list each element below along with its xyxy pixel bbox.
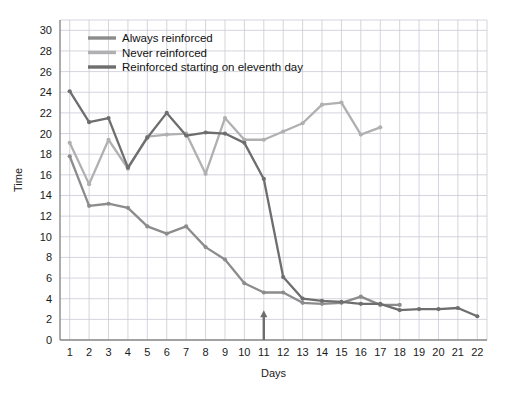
series-polyline-0 bbox=[70, 156, 400, 305]
y-tick-label: 8 bbox=[46, 251, 52, 263]
y-tick-label: 14 bbox=[40, 189, 52, 201]
data-point bbox=[184, 134, 188, 138]
data-point bbox=[359, 132, 363, 136]
y-tick-label: 4 bbox=[46, 293, 52, 305]
data-point bbox=[281, 275, 285, 279]
data-point bbox=[203, 245, 207, 249]
data-point bbox=[223, 257, 227, 261]
x-tick-label: 16 bbox=[355, 346, 367, 358]
data-point bbox=[87, 204, 91, 208]
x-tick-label: 13 bbox=[296, 346, 308, 358]
y-tick-label: 30 bbox=[40, 24, 52, 36]
x-tick-label: 17 bbox=[374, 346, 386, 358]
y-tick-label: 6 bbox=[46, 272, 52, 284]
data-point bbox=[145, 224, 149, 228]
y-tick-label: 28 bbox=[40, 45, 52, 57]
y-tick-label: 10 bbox=[40, 231, 52, 243]
data-point bbox=[301, 121, 305, 125]
data-point bbox=[398, 308, 402, 312]
data-point bbox=[320, 299, 324, 303]
data-point bbox=[339, 300, 343, 304]
x-tick-label: 10 bbox=[238, 346, 250, 358]
data-point bbox=[242, 141, 246, 145]
series-polyline-2 bbox=[70, 91, 478, 316]
x-tick-label: 11 bbox=[258, 346, 269, 358]
data-point bbox=[262, 177, 266, 181]
arrow-head bbox=[260, 310, 267, 317]
x-tick-label: 3 bbox=[105, 346, 111, 358]
data-point bbox=[165, 132, 169, 136]
data-point bbox=[145, 136, 149, 140]
x-axis-tick-labels: 12345678910111213141516171819202122 bbox=[67, 346, 484, 358]
x-tick-label: 6 bbox=[164, 346, 170, 358]
data-point bbox=[165, 232, 169, 236]
data-point bbox=[68, 89, 72, 93]
data-point bbox=[106, 202, 110, 206]
eleventh-day-marker bbox=[260, 310, 267, 340]
x-tick-label: 2 bbox=[86, 346, 92, 358]
data-point bbox=[301, 297, 305, 301]
y-tick-label: 2 bbox=[46, 313, 52, 325]
data-point bbox=[281, 129, 285, 133]
y-tick-label: 12 bbox=[40, 210, 52, 222]
data-point bbox=[203, 172, 207, 176]
legend: Always reinforcedNever reinforcedReinfor… bbox=[88, 32, 303, 73]
data-point bbox=[106, 138, 110, 142]
legend-label: Always reinforced bbox=[122, 32, 213, 44]
x-tick-label: 18 bbox=[394, 346, 406, 358]
data-point bbox=[126, 166, 130, 170]
series-line bbox=[68, 154, 402, 307]
data-point bbox=[126, 206, 130, 210]
data-point bbox=[68, 141, 72, 145]
x-tick-label: 8 bbox=[203, 346, 209, 358]
x-tick-label: 15 bbox=[335, 346, 347, 358]
data-point bbox=[417, 307, 421, 311]
x-tick-label: 7 bbox=[183, 346, 189, 358]
y-tick-label: 24 bbox=[40, 86, 52, 98]
data-point bbox=[301, 301, 305, 305]
data-point bbox=[242, 281, 246, 285]
data-point bbox=[223, 116, 227, 120]
y-tick-label: 0 bbox=[46, 334, 52, 346]
data-point bbox=[203, 130, 207, 134]
x-tick-label: 14 bbox=[316, 346, 328, 358]
x-tick-label: 5 bbox=[144, 346, 150, 358]
series-line bbox=[68, 89, 480, 318]
y-tick-label: 18 bbox=[40, 148, 52, 160]
data-point bbox=[165, 111, 169, 115]
data-point bbox=[378, 125, 382, 129]
x-tick-label: 12 bbox=[277, 346, 289, 358]
x-tick-label: 20 bbox=[432, 346, 444, 358]
data-point bbox=[436, 307, 440, 311]
x-tick-label: 9 bbox=[222, 346, 228, 358]
y-axis-title: Time bbox=[12, 168, 24, 192]
y-tick-label: 26 bbox=[40, 66, 52, 78]
data-point bbox=[378, 302, 382, 306]
y-tick-label: 20 bbox=[40, 128, 52, 140]
line-chart: 0246810121416182022242628301234567891011… bbox=[0, 0, 505, 393]
data-point bbox=[184, 224, 188, 228]
data-point bbox=[456, 306, 460, 310]
legend-label: Reinforced starting on eleventh day bbox=[122, 61, 303, 73]
data-point bbox=[87, 182, 91, 186]
data-point bbox=[262, 290, 266, 294]
data-point bbox=[87, 120, 91, 124]
x-tick-label: 21 bbox=[452, 346, 464, 358]
legend-label: Never reinforced bbox=[122, 47, 207, 59]
x-tick-label: 22 bbox=[471, 346, 483, 358]
data-point bbox=[359, 295, 363, 299]
data-point bbox=[339, 100, 343, 104]
data-point bbox=[281, 290, 285, 294]
data-point bbox=[262, 138, 266, 142]
data-point bbox=[475, 314, 479, 318]
y-tick-label: 16 bbox=[40, 169, 52, 181]
x-tick-label: 4 bbox=[125, 346, 131, 358]
x-tick-label: 1 bbox=[67, 346, 73, 358]
chart-canvas: 0246810121416182022242628301234567891011… bbox=[0, 0, 505, 393]
y-tick-label: 22 bbox=[40, 107, 52, 119]
data-point bbox=[68, 154, 72, 158]
data-point bbox=[359, 302, 363, 306]
x-axis-title: Days bbox=[261, 367, 287, 379]
data-point bbox=[106, 116, 110, 120]
x-tick-label: 19 bbox=[413, 346, 425, 358]
